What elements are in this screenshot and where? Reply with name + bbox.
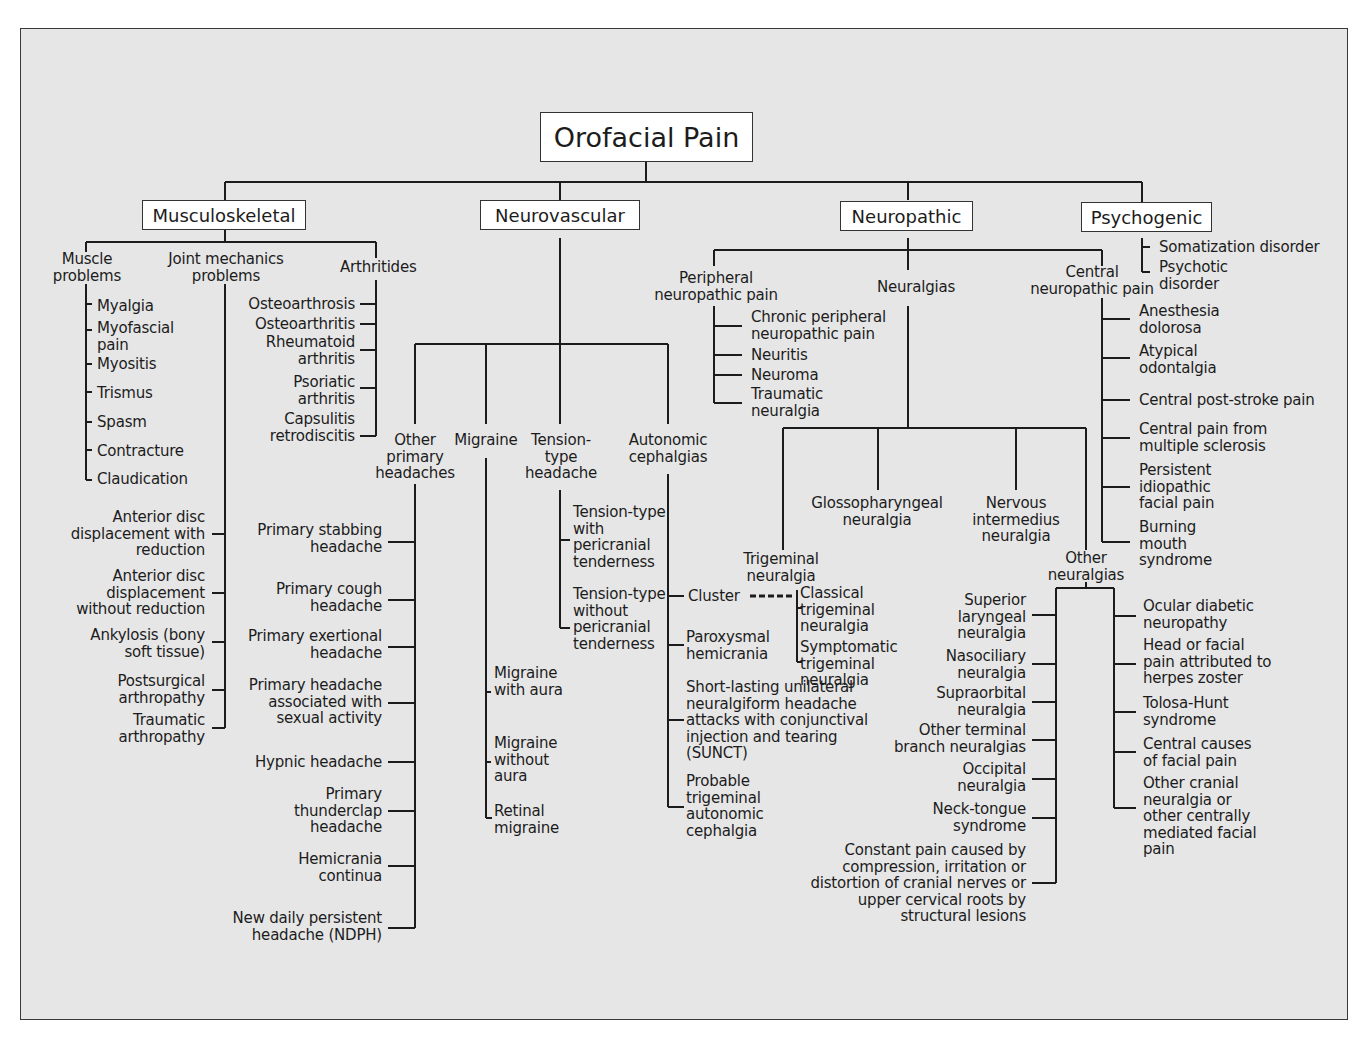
headache-item: Hemicrania continua xyxy=(270,851,382,884)
category-label: Neurovascular xyxy=(495,205,625,226)
arthritis-item: Psoriatic arthritis xyxy=(260,374,355,407)
other-neuralgia-item: Supraorbital neuralgia xyxy=(900,685,1026,718)
psychogenic-item: Somatization disorder xyxy=(1159,239,1319,256)
group-arthritides: Arthritides xyxy=(340,259,417,276)
arthritis-item: Osteoarthrosis xyxy=(220,296,355,313)
trigeminal-item: Symptomatic trigeminal neuralgia xyxy=(800,639,910,689)
category-psychogenic: Psychogenic xyxy=(1081,202,1212,232)
group-joint-mechanics: Joint mechanics problems xyxy=(156,251,296,284)
trigeminal-neuralgia-label: Trigeminal neuralgia xyxy=(733,551,829,584)
other-neuralgias-label: Other neuralgias xyxy=(1036,550,1136,583)
psychogenic-item: Psychotic disorder xyxy=(1159,259,1239,292)
group-muscle-problems: Muscle problems xyxy=(46,251,128,284)
trigeminal-item: Classical trigeminal neuralgia xyxy=(800,585,890,635)
muscle-item: Contracture xyxy=(97,443,184,460)
arthritis-item: Rheumatoid arthritis xyxy=(250,334,355,367)
joint-item: Anterior disc displacement with reductio… xyxy=(60,509,205,559)
joint-item: Ankylosis (bony soft tissue) xyxy=(60,627,205,660)
central-item: Anesthesia dolorosa xyxy=(1139,303,1239,336)
headache-item: Primary thunderclap headache xyxy=(270,786,382,836)
category-label: Neuropathic xyxy=(852,206,962,227)
glossopharyngeal-neuralgia: Glossopharyngeal neuralgia xyxy=(796,495,958,528)
muscle-item: Spasm xyxy=(97,414,147,431)
group-neuralgias: Neuralgias xyxy=(866,279,966,296)
group-other-primary-headaches: Other primary headaches xyxy=(370,432,460,482)
other-neuralgia-item: Superior laryngeal neuralgia xyxy=(910,592,1026,642)
nervous-intermedius-neuralgia: Nervous intermedius neuralgia xyxy=(960,495,1072,545)
headache-item: New daily persistent headache (NDPH) xyxy=(200,910,382,943)
other-neuralgia-item: Tolosa-Hunt syndrome xyxy=(1143,695,1243,728)
muscle-item: Claudication xyxy=(97,471,188,488)
muscle-item: Myofascial pain xyxy=(97,320,187,353)
headache-item: Primary stabbing headache xyxy=(220,522,382,555)
group-autonomic-cephalgias: Autonomic cephalgias xyxy=(620,432,716,465)
tension-item: Tension-type without pericranial tendern… xyxy=(573,586,667,652)
category-neuropathic: Neuropathic xyxy=(840,201,973,231)
peripheral-item: Chronic peripheral neuropathic pain xyxy=(751,309,911,342)
tension-item: Tension-type with pericranial tenderness xyxy=(573,504,667,570)
other-neuralgia-item: Central causes of facial pain xyxy=(1143,736,1263,769)
peripheral-item: Neuritis xyxy=(751,347,808,364)
figure-caption-clipped xyxy=(0,1040,1364,1048)
peripheral-item: Traumatic neuralgia xyxy=(751,386,831,419)
group-peripheral-neuropathic: Peripheral neuropathic pain xyxy=(644,270,788,303)
root-node-box: Orofacial Pain xyxy=(540,112,753,162)
arthritis-item: Capsulitis retrodiscitis xyxy=(250,411,355,444)
joint-item: Anterior disc displacement without reduc… xyxy=(55,568,205,618)
migraine-item: Retinal migraine xyxy=(494,803,566,836)
autonomic-item-cluster: Cluster xyxy=(688,588,740,605)
other-neuralgia-item: Occipital neuralgia xyxy=(920,761,1026,794)
joint-item: Traumatic arthropathy xyxy=(90,712,205,745)
other-neuralgia-item: Nasociliary neuralgia xyxy=(910,648,1026,681)
other-neuralgia-item: Ocular diabetic neuropathy xyxy=(1143,598,1273,631)
migraine-item: Migraine with aura xyxy=(494,665,566,698)
group-central-neuropathic: Central neuropathic pain xyxy=(1022,264,1162,297)
peripheral-item: Neuroma xyxy=(751,367,818,384)
central-item: Persistent idiopathic facial pain xyxy=(1139,462,1229,512)
autonomic-item: Short-lasting unilateral neuralgiform he… xyxy=(686,679,872,762)
other-neuralgia-item: Neck-tongue syndrome xyxy=(910,801,1026,834)
central-item: Central post-stroke pain xyxy=(1139,392,1315,409)
other-neuralgia-item: Head or facial pain attributed to herpes… xyxy=(1143,637,1273,687)
central-item: Central pain from multiple sclerosis xyxy=(1139,421,1289,454)
category-neurovascular: Neurovascular xyxy=(480,200,640,230)
migraine-item: Migraine without aura xyxy=(494,735,566,785)
autonomic-item: Paroxysmal hemicrania xyxy=(686,629,778,662)
muscle-item: Trismus xyxy=(97,385,153,402)
headache-item: Hypnic headache xyxy=(230,754,382,771)
joint-item: Postsurgical arthropathy xyxy=(90,673,205,706)
category-label: Musculoskeletal xyxy=(152,205,295,226)
muscle-item: Myositis xyxy=(97,356,156,373)
group-tension-type: Tension-type headache xyxy=(520,432,602,482)
headache-item: Primary cough headache xyxy=(240,581,382,614)
muscle-item: Myalgia xyxy=(97,298,154,315)
headache-item: Primary headache associated with sexual … xyxy=(230,677,382,727)
other-neuralgia-item: Other cranial neuralgia or other central… xyxy=(1143,775,1268,858)
central-item: Atypical odontalgia xyxy=(1139,343,1239,376)
central-item: Burning mouth syndrome xyxy=(1139,519,1219,569)
category-musculoskeletal: Musculoskeletal xyxy=(142,200,306,230)
other-neuralgia-item: Other terminal branch neuralgias xyxy=(876,722,1026,755)
root-title: Orofacial Pain xyxy=(554,122,740,153)
group-migraine: Migraine xyxy=(448,432,524,449)
headache-item: Primary exertional headache xyxy=(230,628,382,661)
arthritis-item: Osteoarthritis xyxy=(220,316,355,333)
other-neuralgia-item: Constant pain caused by compression, irr… xyxy=(806,842,1026,925)
category-label: Psychogenic xyxy=(1091,207,1203,228)
autonomic-item: Probable trigeminal autonomic cephalgia xyxy=(686,773,776,839)
